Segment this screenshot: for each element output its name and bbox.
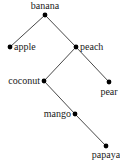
edge-banana-peach bbox=[45, 15, 76, 47]
edge-mango-papaya bbox=[75, 114, 106, 146]
edge-peach-coconut bbox=[44, 47, 76, 81]
label-banana: banana bbox=[31, 0, 60, 11]
tree-labels: bananaapplepeachcoconutpearmangopapaya bbox=[8, 0, 120, 160]
label-pear: pear bbox=[100, 86, 118, 97]
tree-diagram: bananaapplepeachcoconutpearmangopapaya bbox=[0, 0, 120, 160]
label-apple: apple bbox=[14, 41, 36, 52]
edge-peach-pear bbox=[76, 47, 109, 82]
node-coconut bbox=[42, 79, 47, 84]
node-papaya bbox=[104, 144, 109, 149]
label-peach: peach bbox=[80, 41, 103, 52]
node-mango bbox=[73, 112, 78, 117]
node-pear bbox=[107, 80, 112, 85]
node-banana bbox=[43, 13, 48, 18]
label-papaya: papaya bbox=[92, 149, 120, 160]
node-apple bbox=[8, 45, 13, 50]
label-coconut: coconut bbox=[8, 75, 40, 86]
label-mango: mango bbox=[44, 108, 71, 119]
node-peach bbox=[74, 45, 79, 50]
